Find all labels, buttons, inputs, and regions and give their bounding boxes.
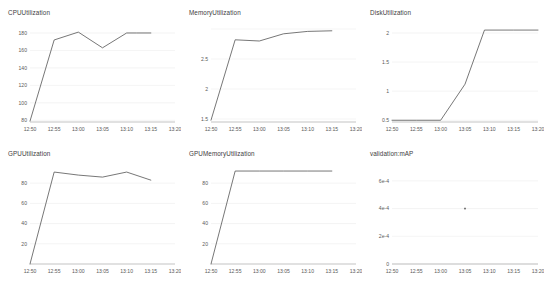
svg-text:140: 140	[19, 65, 28, 71]
chart-panel-disk-utilization[interactable]: DiskUtilization 0.511.5212:5012:5513:001…	[362, 0, 544, 141]
svg-text:0.5: 0.5	[382, 117, 389, 123]
svg-text:13:15: 13:15	[144, 268, 157, 274]
svg-text:13:00: 13:00	[434, 268, 447, 274]
svg-text:80: 80	[21, 180, 27, 186]
svg-text:13:10: 13:10	[301, 268, 314, 274]
svg-text:160: 160	[19, 47, 28, 53]
svg-text:120: 120	[19, 82, 28, 88]
svg-text:80: 80	[21, 117, 27, 123]
svg-text:12:50: 12:50	[386, 126, 399, 132]
svg-text:13:00: 13:00	[72, 126, 85, 132]
svg-text:12:50: 12:50	[386, 268, 399, 274]
svg-text:12:50: 12:50	[24, 268, 37, 274]
svg-text:13:15: 13:15	[325, 126, 338, 132]
svg-text:13:00: 13:00	[253, 126, 266, 132]
chart-plot-memory-utilization: 1.522.512:5012:5513:0013:0513:1013:1513:…	[181, 0, 362, 141]
svg-text:13:10: 13:10	[483, 268, 496, 274]
svg-text:4e-4: 4e-4	[379, 205, 389, 211]
svg-text:12:55: 12:55	[48, 126, 61, 132]
svg-text:80: 80	[202, 180, 208, 186]
svg-text:13:15: 13:15	[507, 126, 520, 132]
svg-text:13:05: 13:05	[459, 268, 472, 274]
chart-plot-gpu-memory-utilization: 2040608012:5012:5513:0013:0513:1013:1513…	[181, 141, 362, 283]
svg-text:13:20: 13:20	[169, 126, 181, 132]
svg-text:12:55: 12:55	[229, 268, 242, 274]
svg-text:40: 40	[21, 220, 27, 226]
svg-text:13:15: 13:15	[325, 268, 338, 274]
chart-plot-cpu-utilization: 8010012014016018012:5012:5513:0013:0513:…	[0, 0, 181, 141]
metrics-dashboard: CPUUtilization 8010012014016018012:5012:…	[0, 0, 544, 283]
svg-text:13:20: 13:20	[350, 268, 362, 274]
svg-text:20: 20	[21, 241, 27, 247]
svg-text:180: 180	[19, 30, 28, 36]
svg-text:13:20: 13:20	[532, 126, 544, 132]
chart-panel-gpu-memory-utilization[interactable]: GPUMemoryUtilization 2040608012:5012:551…	[181, 141, 362, 283]
svg-text:12:55: 12:55	[229, 126, 242, 132]
chart-panel-validation-map[interactable]: validation:mAP 02e-44e-46e-412:5012:5513…	[362, 141, 544, 283]
svg-text:13:00: 13:00	[253, 268, 266, 274]
svg-text:13:05: 13:05	[96, 268, 109, 274]
svg-text:12:55: 12:55	[410, 268, 423, 274]
chart-panel-memory-utilization[interactable]: MemoryUtilization 1.522.512:5012:5513:00…	[181, 0, 362, 141]
chart-panel-cpu-utilization[interactable]: CPUUtilization 8010012014016018012:5012:…	[0, 0, 181, 141]
svg-text:13:20: 13:20	[169, 268, 181, 274]
svg-text:13:00: 13:00	[434, 126, 447, 132]
chart-plot-validation-map: 02e-44e-46e-412:5012:5513:0013:0513:1013…	[362, 141, 544, 283]
svg-text:13:00: 13:00	[72, 268, 85, 274]
svg-text:13:15: 13:15	[507, 268, 520, 274]
svg-text:12:50: 12:50	[205, 126, 218, 132]
svg-text:6e-4: 6e-4	[379, 178, 389, 184]
chart-plot-disk-utilization: 0.511.5212:5012:5513:0013:0513:1013:1513…	[362, 0, 544, 141]
svg-text:1: 1	[386, 88, 389, 94]
chart-panel-gpu-utilization[interactable]: GPUUtilization 2040608012:5012:5513:0013…	[0, 141, 181, 283]
svg-text:13:05: 13:05	[96, 126, 109, 132]
svg-text:13:05: 13:05	[459, 126, 472, 132]
svg-text:20: 20	[202, 241, 208, 247]
svg-text:100: 100	[19, 100, 28, 106]
svg-text:13:20: 13:20	[350, 126, 362, 132]
svg-text:13:10: 13:10	[120, 126, 133, 132]
svg-text:40: 40	[202, 220, 208, 226]
svg-text:13:15: 13:15	[144, 126, 157, 132]
svg-text:13:10: 13:10	[301, 126, 314, 132]
svg-text:1.5: 1.5	[382, 59, 389, 65]
svg-text:2e-4: 2e-4	[379, 233, 389, 239]
svg-text:2.5: 2.5	[201, 56, 208, 62]
svg-text:60: 60	[21, 200, 27, 206]
svg-text:12:55: 12:55	[48, 268, 61, 274]
svg-text:13:10: 13:10	[120, 268, 133, 274]
svg-text:1.5: 1.5	[201, 116, 208, 122]
svg-text:12:50: 12:50	[205, 268, 218, 274]
svg-text:12:50: 12:50	[24, 126, 37, 132]
svg-text:13:05: 13:05	[277, 268, 290, 274]
chart-plot-gpu-utilization: 2040608012:5012:5513:0013:0513:1013:1513…	[0, 141, 181, 283]
svg-text:13:10: 13:10	[483, 126, 496, 132]
svg-text:2: 2	[205, 86, 208, 92]
svg-text:13:05: 13:05	[277, 126, 290, 132]
svg-text:13:20: 13:20	[532, 268, 544, 274]
svg-text:0: 0	[386, 261, 389, 267]
svg-text:2: 2	[386, 30, 389, 36]
svg-text:12:55: 12:55	[410, 126, 423, 132]
svg-text:60: 60	[202, 200, 208, 206]
